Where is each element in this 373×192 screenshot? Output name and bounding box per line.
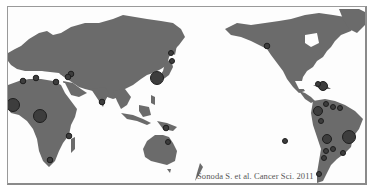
australia-landmass — [143, 135, 177, 165]
marker-argentina-north — [322, 156, 327, 161]
marker-west-africa — [8, 99, 20, 112]
marker-australia-north — [166, 140, 171, 145]
se-asia-landmass — [113, 89, 131, 109]
world-map — [8, 7, 367, 185]
marker-venezuela-2 — [331, 105, 336, 110]
marker-canada-west — [264, 43, 270, 49]
marker-ecuador — [319, 119, 324, 124]
marker-bolivia-south — [324, 149, 329, 154]
marker-hokkaido-2 — [170, 59, 175, 64]
marker-peru-bolivia — [323, 135, 332, 144]
philippines-landmass — [151, 95, 155, 105]
citation-text: Sonoda S. et al. Cancer Sci. 2011 — [197, 171, 314, 181]
marker-hokkaido-1 — [169, 51, 174, 56]
marker-japan — [151, 72, 164, 85]
marker-chile — [317, 172, 322, 177]
marker-east-africa — [66, 133, 72, 139]
marker-brazil — [343, 131, 356, 144]
marker-paraguay — [331, 147, 336, 152]
marker-colombia — [314, 107, 323, 116]
north-america-landmass — [225, 13, 357, 93]
marker-new-guinea — [163, 125, 169, 131]
marker-guyana — [338, 106, 343, 111]
marker-india — [99, 99, 105, 105]
marker-libya — [53, 79, 59, 85]
map-frame: Sonoda S. et al. Cancer Sci. 2011 — [7, 6, 367, 185]
central-america-landmass — [299, 91, 315, 103]
marker-south-africa — [47, 157, 53, 163]
marker-algeria — [33, 75, 39, 81]
madagascar-landmass — [71, 137, 75, 153]
tasmania-landmass — [167, 169, 171, 173]
marker-middle-east-2 — [65, 74, 71, 80]
marker-morocco — [20, 78, 26, 84]
marker-caribbean-small — [316, 82, 321, 87]
marker-central-africa — [34, 110, 47, 123]
marker-pacific-island — [283, 139, 288, 144]
borneo-landmass — [139, 105, 151, 117]
marker-venezuela-1 — [324, 102, 329, 107]
marker-brazil-south — [341, 151, 346, 156]
